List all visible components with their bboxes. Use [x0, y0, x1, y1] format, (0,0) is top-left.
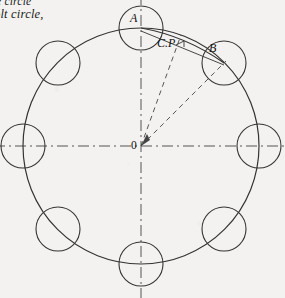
diagram-root: e circle olt circle, A B C.P 0 [0, 0, 285, 298]
bolt-hole-se [202, 207, 246, 251]
center-label-origin: 0 [131, 139, 137, 151]
point-label-a: A [130, 11, 137, 26]
center-arrowhead [141, 134, 150, 146]
radius-to-chord-point [141, 35, 181, 146]
bolt-hole-nw [36, 41, 80, 85]
point-label-b: B [209, 41, 216, 56]
chord-label-cp: C.P [157, 36, 175, 51]
bolt-hole-sw [36, 207, 80, 251]
bolt-circle-diagram [0, 0, 285, 298]
radius-to-b [141, 61, 226, 146]
